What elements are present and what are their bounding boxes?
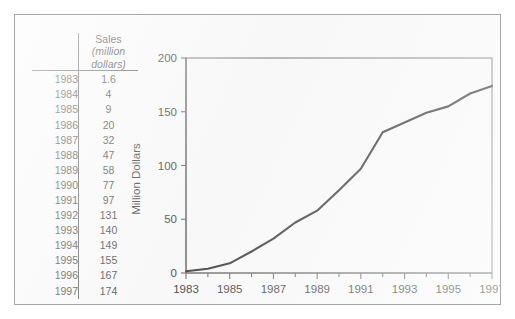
x-tick-label: 1995: [435, 283, 461, 293]
cell-year: 1985: [32, 102, 79, 117]
y-tick-label: 0: [171, 267, 177, 279]
cell-year: 1990: [32, 178, 79, 193]
cell-year: 1991: [32, 193, 79, 208]
cell-year: 1986: [32, 118, 79, 133]
cell-year: 1992: [32, 208, 79, 223]
cell-year: 1996: [32, 268, 79, 283]
x-tick-label: 1983: [173, 283, 199, 293]
y-axis-ticks: 050100150200: [158, 52, 186, 279]
y-tick-label: 200: [158, 52, 177, 64]
cell-year: 1993: [32, 223, 79, 238]
cell-year: 1988: [32, 148, 79, 163]
y-axis-title: Million Dollars: [130, 143, 142, 215]
cell-year: 1984: [32, 87, 79, 102]
series-polyline: [186, 86, 492, 271]
plot-frame: [186, 58, 492, 273]
x-tick-label: 1991: [348, 283, 374, 293]
data-series: [186, 86, 492, 271]
y-tick-label: 50: [164, 213, 177, 225]
x-tick-label: 1997: [479, 283, 500, 293]
y-axis-title-text: Million Dollars: [130, 143, 142, 215]
cell-year: 1989: [32, 163, 79, 178]
cell-year: 1995: [32, 253, 79, 268]
x-tick-label: 1985: [217, 283, 243, 293]
x-tick-label: 1989: [304, 283, 330, 293]
column-header-year: [32, 33, 79, 71]
cell-year: 1997: [32, 284, 79, 299]
chart-svg: Million Dollars 050100150200 19831985198…: [118, 31, 500, 293]
cell-year: 1987: [32, 133, 79, 148]
plot-frame-rect: [186, 58, 492, 273]
cell-year: 1983: [32, 71, 79, 88]
x-tick-label: 1993: [392, 283, 418, 293]
x-tick-label: 1987: [261, 283, 287, 293]
line-chart: Million Dollars 050100150200 19831985198…: [118, 31, 500, 293]
figure-panel: Sales (million dollars) 19831.6198441985…: [14, 14, 501, 305]
y-tick-label: 100: [158, 160, 177, 172]
cell-year: 1994: [32, 238, 79, 253]
x-axis-ticks: 19831985198719891991199319951997: [173, 273, 500, 293]
y-tick-label: 150: [158, 106, 177, 118]
